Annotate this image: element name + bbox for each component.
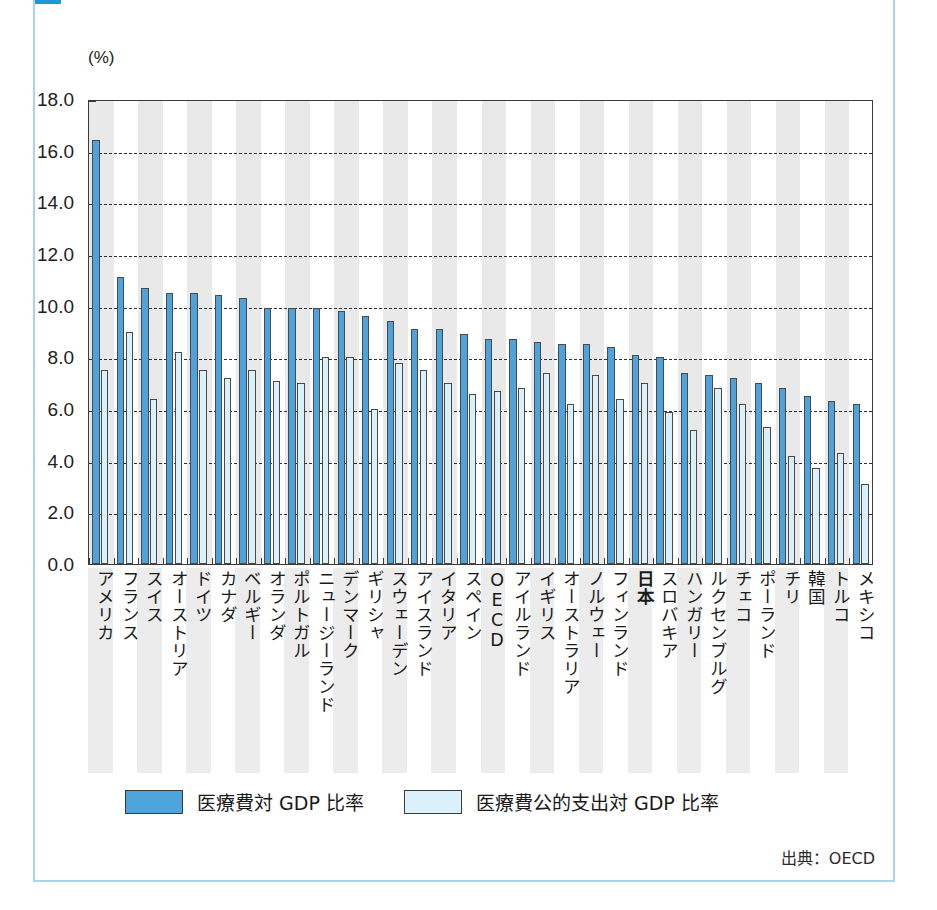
bar-total [534, 342, 541, 564]
x-axis-tick-label: メキシコ [848, 570, 873, 642]
x-tick [653, 558, 654, 564]
bar-public [199, 370, 206, 564]
x-tick [187, 558, 188, 564]
x-tick [408, 558, 409, 564]
bar-group [653, 101, 678, 564]
bar-public [273, 381, 280, 564]
bar-total [705, 375, 712, 564]
x-tick [138, 558, 139, 564]
x-tick [849, 558, 850, 564]
chart-page: (%) 0.02.04.06.08.010.012.014.016.018.0 … [0, 0, 937, 910]
x-axis-tick-label: スロバキア [652, 570, 677, 660]
x-axis-tick-label: イギリス [530, 570, 555, 642]
bar-group [457, 101, 482, 564]
bar-group [555, 101, 580, 564]
bar-total [828, 401, 835, 564]
bar-group [310, 101, 335, 564]
bar-group [383, 101, 408, 564]
bar-total [215, 295, 222, 564]
bar-group [285, 101, 310, 564]
bar-total [387, 321, 394, 564]
y-axis-tick-label: 10.0 [37, 296, 74, 318]
x-tick [236, 558, 237, 564]
y-axis-tick-label: 4.0 [48, 451, 74, 473]
x-axis-tick-label: イタリア [431, 570, 456, 642]
bar-public [420, 370, 427, 564]
y-axis-tick-label: 12.0 [37, 244, 74, 266]
bar-total [583, 344, 590, 564]
x-tick [383, 558, 384, 564]
bar-public [837, 453, 844, 564]
chart-legend: 医療費対 GDP 比率 医療費公的支出対 GDP 比率 [125, 788, 745, 815]
bar-public [690, 430, 697, 564]
bar-public [861, 484, 868, 564]
bar-public [150, 399, 157, 564]
bar-group [163, 101, 188, 564]
bar-total [92, 140, 99, 564]
x-tick [555, 558, 556, 564]
legend-swatch-public [404, 790, 462, 814]
bar-total [656, 357, 663, 564]
x-axis-tick-label: スペイン [456, 570, 481, 642]
bar-public [518, 388, 525, 564]
bar-public [371, 409, 378, 564]
bar-total [436, 329, 443, 564]
x-axis-tick-label: ルクセンブルグ [701, 570, 726, 696]
x-tick [825, 558, 826, 564]
x-tick [506, 558, 507, 564]
bar-total [190, 293, 197, 564]
bar-total [509, 339, 516, 564]
x-tick [776, 558, 777, 564]
bar-public [739, 404, 746, 564]
x-tick [212, 558, 213, 564]
y-axis-tick-label: 16.0 [37, 141, 74, 163]
x-tick [114, 558, 115, 564]
bar-total [141, 288, 148, 564]
bar-total [288, 308, 295, 564]
bar-public [444, 383, 451, 564]
x-tick [580, 558, 581, 564]
x-tick [285, 558, 286, 564]
bar-public [665, 412, 672, 564]
y-axis-tick-label: 0.0 [48, 554, 74, 576]
bar-group [776, 101, 801, 564]
bar-public [494, 391, 501, 564]
x-axis-tick-label: アメリカ [88, 570, 113, 642]
bar-total [632, 355, 639, 564]
x-tick [432, 558, 433, 564]
bar-public [322, 357, 329, 564]
bar-total [460, 334, 467, 564]
bar-group [408, 101, 433, 564]
bar-group [261, 101, 286, 564]
bar-group [751, 101, 776, 564]
x-axis-tick-label: 韓国 [799, 570, 824, 606]
y-axis-tick-label: 8.0 [48, 347, 74, 369]
bar-public [812, 468, 819, 564]
bar-public [297, 383, 304, 564]
x-axis-tick-label: フィンランド [603, 570, 628, 678]
legend-label-public: 医療費公的支出対 GDP 比率 [476, 788, 719, 815]
bar-group [359, 101, 384, 564]
bar-group [482, 101, 507, 564]
bar-group [236, 101, 261, 564]
bar-group [800, 101, 825, 564]
x-tick [359, 558, 360, 564]
bar-public [224, 378, 231, 564]
bar-public [543, 373, 550, 564]
x-tick [678, 558, 679, 564]
x-axis-tick-label: ポルトガル [284, 570, 309, 660]
bar-total [313, 308, 320, 564]
bar-group [212, 101, 237, 564]
bar-public [175, 352, 182, 564]
x-axis-tick-label: チリ [775, 570, 800, 606]
x-tick [457, 558, 458, 564]
x-axis-tick-label: オーストリア [162, 570, 187, 678]
x-tick [261, 558, 262, 564]
bar-total [485, 339, 492, 564]
bar-total [853, 404, 860, 564]
x-tick [482, 558, 483, 564]
y-axis-tick-label: 2.0 [48, 502, 74, 524]
bar-group [187, 101, 212, 564]
x-tick [751, 558, 752, 564]
bar-public [248, 370, 255, 564]
